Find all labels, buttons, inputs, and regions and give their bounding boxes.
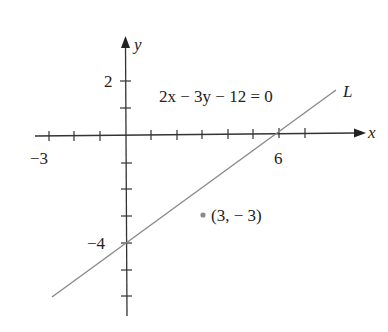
x-axis-ticks xyxy=(49,128,305,141)
line-label: L xyxy=(342,82,352,101)
equation-label: 2x − 3y − 12 = 0 xyxy=(159,87,273,106)
x-tick-label-neg3: −3 xyxy=(30,149,48,168)
y-axis xyxy=(126,44,128,316)
coordinate-plane: y x 2 −4 −3 6 2x − 3y − 12 = 0 L (3, − 3… xyxy=(0,0,388,332)
x-axis xyxy=(35,133,356,136)
y-tick-label-2: 2 xyxy=(104,72,113,91)
x-tick-label-6: 6 xyxy=(274,149,283,168)
x-axis-arrow-icon xyxy=(354,129,366,138)
y-tick-label-neg4: −4 xyxy=(87,234,106,253)
x-axis-label: x xyxy=(367,123,376,142)
point-label: (3, − 3) xyxy=(211,206,262,225)
point-marker xyxy=(200,212,205,217)
line-L xyxy=(52,90,336,297)
y-axis-label: y xyxy=(132,35,142,54)
y-axis-arrow-icon xyxy=(121,36,130,48)
